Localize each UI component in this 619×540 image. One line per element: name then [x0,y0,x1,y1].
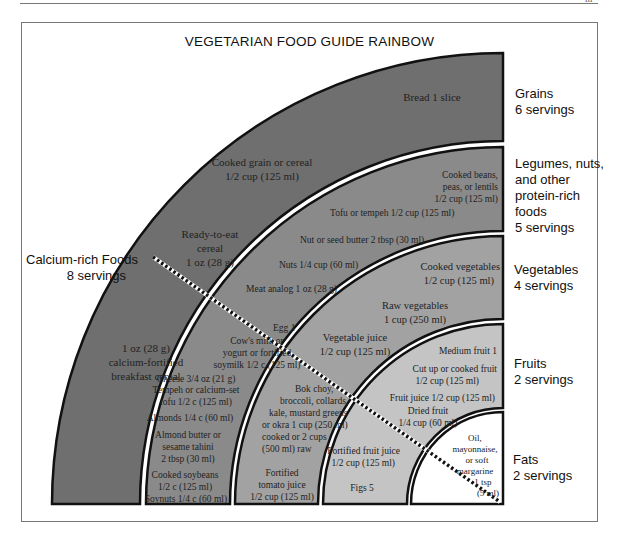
item-bread: Bread 1 slice [403,91,461,103]
svg-text:1/2 cup (125 ml): 1/2 cup (125 ml) [320,346,391,358]
svg-text:1/2 cup (125 ml): 1/2 cup (125 ml) [225,170,299,183]
svg-text:Cooked soybeans: Cooked soybeans [152,470,219,480]
svg-text:Egg 1: Egg 1 [273,323,296,333]
svg-text:Tofu or tempeh 1/2 cup (125 ml: Tofu or tempeh 1/2 cup (125 ml) [330,208,454,219]
svg-text:1/2 cup (125 ml): 1/2 cup (125 ml) [415,376,479,387]
svg-text:1/4 cup (60 ml): 1/4 cup (60 ml) [399,418,458,429]
svg-text:2 tbsp (30 ml): 2 tbsp (30 ml) [161,454,215,465]
svg-text:Bok choy,: Bok choy, [295,384,333,394]
svg-text:Soynuts 1/4 c (60 ml): Soynuts 1/4 c (60 ml) [145,494,227,505]
svg-text:Figs 5: Figs 5 [350,483,374,493]
svg-text:peas, or lentils: peas, or lentils [443,182,498,192]
svg-text:1 oz (28 g): 1 oz (28 g) [122,342,170,355]
svg-text:Fruit juice 1/2 cup (125 ml): Fruit juice 1/2 cup (125 ml) [390,393,495,404]
svg-text:or okra 1 cup (250 ml): or okra 1 cup (250 ml) [262,420,348,431]
svg-text:tomato juice: tomato juice [258,480,305,490]
svg-text:Cow's milk or: Cow's milk or [230,336,284,346]
svg-text:calcium-fortified: calcium-fortified [109,356,184,368]
svg-text:Medium fruit 1: Medium fruit 1 [439,346,497,356]
svg-text:Almond butter or: Almond butter or [155,430,222,440]
svg-text:sesame tahini: sesame tahini [162,442,214,452]
svg-text:1 cup (250 ml): 1 cup (250 ml) [384,314,447,326]
svg-text:1/2 cup (125 ml): 1/2 cup (125 ml) [424,275,495,287]
svg-text:soymilk 1/2 c (125 ml): soymilk 1/2 c (125 ml) [213,360,300,371]
svg-text:Nut or seed butter 2 tbsp (30: Nut or seed butter 2 tbsp (30 ml) [300,235,424,246]
svg-text:margarine: margarine [457,466,493,476]
label-fats: Fats2 servings [513,452,572,484]
label-vegetables: Vegetables4 servings [514,262,578,294]
svg-text:Almonds 1/4 c (60 ml): Almonds 1/4 c (60 ml) [147,413,234,424]
svg-text:Cooked vegetables: Cooked vegetables [420,261,500,272]
svg-text:1 tsp: 1 tsp [474,477,492,487]
svg-text:mayonnaise,: mayonnaise, [452,444,497,454]
label-fruits: Fruits2 servings [514,356,573,388]
svg-text:Nuts 1/4 cup (60 ml): Nuts 1/4 cup (60 ml) [279,260,358,271]
svg-text:Meat analog 1 oz (28 g): Meat analog 1 oz (28 g) [246,284,337,295]
svg-text:(5 ml): (5 ml) [477,488,499,498]
svg-text:1/2 cup (125 ml): 1/2 cup (125 ml) [434,194,498,205]
svg-text:Cheese 3/4 oz (21 g): Cheese 3/4 oz (21 g) [157,374,236,385]
label-grains: Grains6 servings [515,86,574,118]
svg-text:cooked or 2 cups: cooked or 2 cups [262,432,327,442]
svg-text:broccoli, collards,: broccoli, collards, [280,396,348,406]
svg-text:Cooked grain or cereal: Cooked grain or cereal [212,156,312,168]
svg-text:(500 ml) raw: (500 ml) raw [262,444,312,455]
svg-text:cereal: cereal [197,242,223,254]
svg-text:Cooked beans,: Cooked beans, [442,170,498,180]
svg-text:Vegetable juice: Vegetable juice [323,332,388,343]
svg-text:or soft: or soft [465,455,489,465]
svg-text:Raw vegetables: Raw vegetables [382,300,448,311]
label-calcium: Calcium-rich Foods8 servings [26,252,126,284]
svg-text:tofu 1/2 c (125 ml): tofu 1/2 c (125 ml) [160,397,232,408]
svg-text:Dried fruit: Dried fruit [408,406,449,416]
svg-text:1/2 c (125 ml): 1/2 c (125 ml) [158,482,212,493]
label-legumes: Legumes, nuts,and otherprotein-richfoods… [515,156,604,236]
svg-text:Fortified: Fortified [265,468,298,478]
svg-text:1/2 cup (125 ml): 1/2 cup (125 ml) [250,492,314,503]
svg-text:yogurt or fortified: yogurt or fortified [223,348,292,358]
svg-text:1/2 cup (125 ml): 1/2 cup (125 ml) [331,458,395,469]
svg-text:Fortified fruit juice: Fortified fruit juice [327,446,400,456]
svg-text:Ready-to-eat: Ready-to-eat [182,228,239,240]
svg-text:Tempeh or calcium-set: Tempeh or calcium-set [153,385,240,395]
svg-text:Cut up or cooked fruit: Cut up or cooked fruit [413,364,498,374]
svg-text:1 oz (28 g): 1 oz (28 g) [186,256,234,269]
svg-text:Oil,: Oil, [468,433,482,443]
svg-text:kale, mustard greens: kale, mustard greens [269,408,348,418]
